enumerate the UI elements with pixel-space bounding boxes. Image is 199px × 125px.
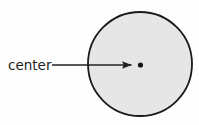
center-point-dot bbox=[138, 62, 143, 67]
center-label: center bbox=[8, 57, 52, 73]
geometry-figure: center bbox=[0, 0, 199, 125]
figure-canvas: center bbox=[0, 0, 199, 125]
